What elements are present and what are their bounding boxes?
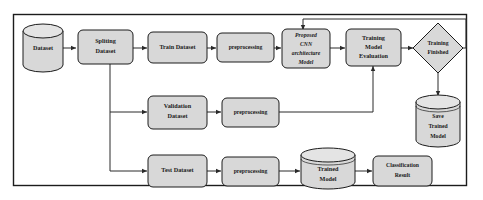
- node-trained-model-label-line1: Trained: [318, 165, 339, 172]
- node-classification-result-label-line1: Classification: [386, 162, 420, 168]
- arrowhead-icon: [408, 46, 413, 50]
- node-save-trained-model-label-line2: Trained: [428, 123, 448, 129]
- node-preprocessing-test-label: preprocessing: [234, 168, 268, 174]
- node-spliting-dataset-label-line1: Spliting: [95, 37, 117, 44]
- node-test-dataset-label: Test Dataset: [161, 166, 194, 173]
- node-training-finished-label-line1: Training: [427, 40, 448, 46]
- node-test-dataset[interactable]: Test Dataset: [148, 155, 207, 187]
- arrowhead-icon: [367, 169, 372, 173]
- arrowhead-icon: [295, 169, 300, 173]
- node-proposed-cnn-label-line2: CNN: [300, 41, 313, 47]
- node-train-dataset-label: Train Dataset: [159, 43, 196, 50]
- node-trained-model[interactable]: Trained Model: [301, 148, 355, 189]
- arrowhead-icon: [276, 46, 281, 50]
- node-training-finished[interactable]: Training Finished: [413, 23, 463, 73]
- arrowhead-icon: [142, 46, 147, 50]
- node-proposed-cnn-label-line1: Proposed: [295, 32, 317, 38]
- node-preprocessing-validation[interactable]: preprocessing: [222, 98, 279, 127]
- node-validation-dataset-label-line2: Dataset: [168, 112, 189, 119]
- node-spliting-dataset-label-line2: Dataset: [96, 47, 117, 54]
- node-proposed-cnn-label-line3: architecture: [292, 50, 321, 56]
- node-save-trained-model-label-line1: Save: [432, 113, 444, 119]
- node-proposed-cnn[interactable]: Proposed CNN architecture Model: [282, 29, 330, 68]
- arrowhead-icon: [216, 169, 221, 173]
- node-train-dataset[interactable]: Train Dataset: [148, 32, 207, 63]
- arrowhead-icon: [371, 66, 375, 71]
- node-dataset[interactable]: Dataset: [23, 24, 63, 72]
- node-proposed-cnn-label-line4: Model: [298, 59, 314, 65]
- arrowhead-icon: [211, 46, 216, 50]
- arrowhead-icon: [340, 46, 345, 50]
- node-dataset-label: Dataset: [33, 44, 54, 51]
- edge-validation-preprocessing-to-evaluation: [279, 66, 373, 112]
- arrowhead-icon: [142, 110, 147, 114]
- node-trained-model-label-line2: Model: [320, 175, 337, 182]
- node-preprocessing-train[interactable]: preprocessing: [217, 33, 274, 62]
- node-validation-dataset[interactable]: Validation Dataset: [148, 96, 207, 129]
- diagram-canvas: Dataset Spliting Dataset Train Dataset p…: [0, 0, 483, 200]
- node-preprocessing-test[interactable]: preprocessing: [222, 157, 279, 186]
- node-training-finished-label-line2: Finished: [428, 49, 450, 55]
- arrowhead-icon: [71, 46, 76, 50]
- node-preprocessing-validation-label: preprocessing: [234, 109, 268, 115]
- node-training-model-evaluation-label-line2: Model: [365, 43, 382, 50]
- node-save-trained-model[interactable]: Save Trained Model: [416, 95, 460, 147]
- flowchart-svg: Dataset Spliting Dataset Train Dataset p…: [0, 0, 483, 200]
- node-spliting-dataset[interactable]: Spliting Dataset: [78, 30, 133, 64]
- node-save-trained-model-label-line3: Model: [430, 133, 446, 139]
- arrowhead-icon: [216, 110, 221, 114]
- node-training-model-evaluation[interactable]: Training Model Evaluation: [346, 29, 401, 66]
- node-training-model-evaluation-label-line3: Evaluation: [359, 52, 388, 59]
- node-validation-dataset-label-line1: Validation: [164, 102, 192, 109]
- node-preprocessing-train-label: preprocessing: [229, 44, 263, 50]
- node-classification-result[interactable]: Classification Result: [373, 156, 432, 186]
- arrowhead-icon: [142, 169, 147, 173]
- node-classification-result-label-line2: Result: [395, 172, 411, 178]
- node-training-model-evaluation-label-line1: Training: [362, 34, 386, 41]
